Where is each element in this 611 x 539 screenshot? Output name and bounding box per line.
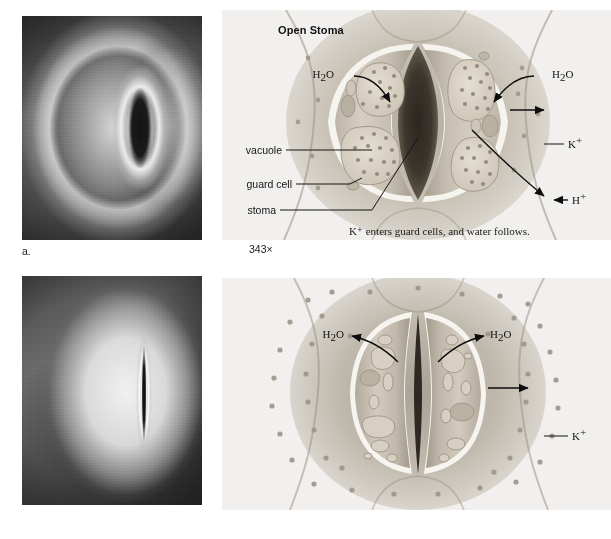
open-stoma-svg: H2O H2O vacuole guard cell stoma K+ H+ xyxy=(222,10,611,240)
panel-title-open: Open Stoma xyxy=(278,24,344,36)
diagram-open-stoma: H2O H2O vacuole guard cell stoma K+ H+ xyxy=(222,10,611,240)
sem-closed-stoma-image xyxy=(22,276,202,505)
stomata-figure: H2O H2O vacuole guard cell stoma K+ H+ O… xyxy=(0,0,611,539)
closed-stoma-svg: H2O H2O K+ xyxy=(222,278,611,510)
label-guard-cell: guard cell xyxy=(246,178,292,190)
figure-letter-a: a. xyxy=(22,245,31,257)
label-stoma: stoma xyxy=(247,204,276,216)
magnification-open: 343× xyxy=(249,243,273,255)
diagram-closed-stoma: H2O H2O K+ xyxy=(222,278,611,510)
label-vacuole: vacuole xyxy=(246,144,282,156)
sem-open-stoma-image xyxy=(22,16,202,240)
panel-open-stoma: H2O H2O vacuole guard cell stoma K+ H+ O… xyxy=(0,0,611,268)
micrograph-open-stoma xyxy=(22,16,202,240)
panel-closed-stoma: H2O H2O K+ Closed Stoma K⁺ exits guard c… xyxy=(0,268,611,539)
micrograph-closed-stoma xyxy=(22,276,202,505)
panel-caption-open: K⁺ enters guard cells, and water follows… xyxy=(349,225,530,238)
